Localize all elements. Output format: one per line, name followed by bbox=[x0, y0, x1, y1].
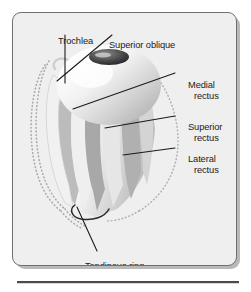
label-superior-oblique-line1: Superior oblique bbox=[109, 40, 175, 50]
cornea-specular-highlight bbox=[95, 53, 111, 58]
label-medial-rectus-line1: Medial bbox=[188, 80, 215, 90]
label-trochlea: Trochlea bbox=[58, 36, 93, 47]
bottom-divider-highlight bbox=[17, 283, 239, 284]
label-medial-rectus: Medial rectus bbox=[188, 80, 219, 101]
label-superior-oblique: Superior oblique bbox=[109, 40, 175, 51]
cornea-pupil bbox=[89, 49, 129, 65]
label-superior-rectus-line2: rectus bbox=[188, 133, 222, 144]
label-tendinous-ring-line1: Tendinous ring bbox=[85, 261, 144, 266]
label-lateral-rectus-line1: Lateral bbox=[188, 154, 216, 164]
anatomy-figure: Trochlea Superior oblique Medial rectus … bbox=[0, 0, 251, 292]
label-trochlea-line1: Trochlea bbox=[58, 36, 93, 46]
label-superior-rectus: Superior rectus bbox=[188, 122, 222, 143]
label-medial-rectus-line2: rectus bbox=[188, 91, 219, 102]
label-superior-rectus-line1: Superior bbox=[188, 122, 222, 132]
label-lateral-rectus-line2: rectus bbox=[188, 165, 219, 176]
label-lateral-rectus: Lateral rectus bbox=[188, 154, 219, 175]
label-tendinous-ring: Tendinous ring bbox=[85, 261, 144, 266]
figure-panel: Trochlea Superior oblique Medial rectus … bbox=[12, 12, 237, 266]
